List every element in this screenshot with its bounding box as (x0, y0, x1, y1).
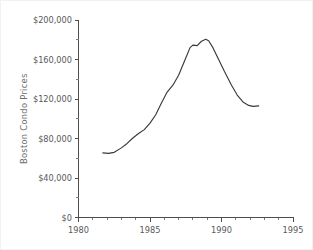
y-tick-label: $0 (62, 213, 72, 223)
y-axis: $0$40,000$80,000$120,000$160,000$200,000 (33, 15, 79, 223)
x-tick-label: 1980 (68, 225, 89, 235)
y-tick-label: $200,000 (33, 15, 72, 25)
y-tick-label: $120,000 (33, 94, 72, 104)
chart-figure: $0$40,000$80,000$120,000$160,000$200,000… (0, 0, 313, 250)
x-tick-label: 1985 (140, 225, 161, 235)
y-tick-label: $160,000 (33, 55, 72, 65)
series-line-boston-condo-prices (103, 39, 259, 153)
x-tick-label: 1995 (283, 225, 304, 235)
data-series-group (103, 39, 259, 153)
y-tick-label: $40,000 (38, 173, 72, 183)
y-axis-title-group: Boston Condo Prices (19, 73, 29, 164)
y-axis-title: Boston Condo Prices (19, 73, 29, 164)
x-axis: 1980198519901995 (68, 218, 303, 236)
x-tick-label: 1990 (211, 225, 232, 235)
line-chart-canvas: $0$40,000$80,000$120,000$160,000$200,000… (1, 1, 313, 250)
y-tick-label: $80,000 (38, 134, 72, 144)
